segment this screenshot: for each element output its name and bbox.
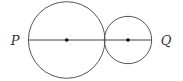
label-q: Q [161, 33, 172, 48]
tangent-circles-diagram: P Q [0, 0, 183, 81]
label-p: P [10, 33, 20, 48]
large-circle-center-point [65, 38, 69, 42]
small-circle-center-point [126, 38, 130, 42]
